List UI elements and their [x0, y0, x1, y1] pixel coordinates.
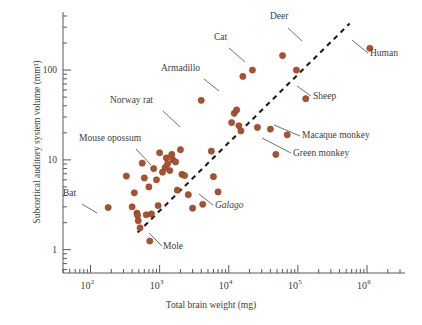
data-point[interactable]	[240, 73, 246, 79]
annotation-label: Deer	[270, 11, 289, 21]
data-point[interactable]	[208, 148, 214, 154]
x-axis-tick-exponent: 2	[91, 278, 95, 286]
x-axis-tick-label: 10	[288, 280, 298, 291]
annotation-leader-line	[163, 111, 180, 127]
annotation-leader-line	[288, 28, 302, 41]
data-point[interactable]	[254, 124, 260, 130]
annotation-label: Bat	[63, 188, 77, 198]
annotation-leader-line	[82, 204, 97, 213]
data-point[interactable]	[229, 120, 235, 126]
data-point[interactable]	[169, 151, 175, 157]
data-point[interactable]	[157, 150, 163, 156]
annotation-label: Sheep	[313, 91, 336, 101]
trend-line	[138, 24, 350, 233]
data-point[interactable]	[185, 192, 191, 198]
annotation-label: Armadillo	[161, 63, 200, 73]
data-point[interactable]	[200, 201, 206, 207]
annotation-leader-line	[262, 138, 291, 153]
data-point[interactable]	[146, 184, 152, 190]
annotation-label: Human	[370, 48, 398, 58]
data-point[interactable]	[267, 126, 273, 132]
data-point[interactable]	[284, 132, 290, 138]
annotation-label: Galago	[215, 200, 244, 210]
x-axis-tick-label: 10	[150, 280, 160, 291]
data-point[interactable]	[190, 205, 196, 211]
data-point[interactable]	[172, 159, 178, 165]
data-point[interactable]	[123, 173, 129, 179]
y-axis-tick-label: 1	[52, 245, 57, 255]
x-axis-tick-exponent: 5	[298, 278, 302, 286]
x-axis-tick-label: 10	[219, 280, 229, 291]
annotation-leader-line	[204, 79, 219, 91]
data-point[interactable]	[273, 151, 279, 157]
data-point[interactable]	[163, 155, 169, 161]
x-axis-tick-label: 10	[357, 280, 367, 291]
data-point[interactable]	[153, 177, 159, 183]
annotation-label: Mole	[163, 241, 183, 251]
x-axis-tick-exponent: 6	[367, 278, 371, 286]
annotation-label: Macaque monkey	[302, 130, 370, 140]
data-point[interactable]	[137, 225, 143, 231]
data-points-group	[105, 45, 373, 244]
data-point[interactable]	[151, 165, 157, 171]
y-axis-tick-label: 10	[48, 155, 58, 165]
data-point[interactable]	[135, 218, 141, 224]
data-point[interactable]	[215, 189, 221, 195]
data-point[interactable]	[129, 204, 135, 210]
annotation-label: Norway rat	[110, 95, 153, 105]
x-axis-tick-exponent: 3	[160, 278, 164, 286]
data-point[interactable]	[279, 52, 285, 58]
data-point[interactable]	[234, 107, 240, 113]
annotation-label: Green monkey	[293, 148, 349, 158]
data-point[interactable]	[293, 67, 299, 73]
data-point[interactable]	[155, 202, 161, 208]
data-point[interactable]	[198, 97, 204, 103]
annotation-label: Mouse opossum	[79, 133, 142, 143]
annotation-leader-line	[352, 40, 368, 53]
data-point[interactable]	[105, 204, 111, 210]
y-axis-title: Subcortical auditory system volume (mm³)	[32, 42, 42, 242]
data-point[interactable]	[164, 161, 170, 167]
annotation-labels-group: BatMouse opossumNorway ratArmadilloCatDe…	[63, 11, 398, 251]
data-point[interactable]	[177, 147, 183, 153]
y-axis-tick-label: 100	[43, 65, 58, 75]
annotation-label: Cat	[214, 32, 228, 42]
x-axis-tick-label: 10	[81, 280, 91, 291]
data-point[interactable]	[249, 67, 255, 73]
scatter-plot-figure: 110100102103104105106 BatMouse opossumNo…	[0, 0, 422, 325]
data-point[interactable]	[141, 175, 147, 181]
data-point[interactable]	[139, 160, 145, 166]
data-point[interactable]	[167, 167, 173, 173]
x-axis-title: Total brain weight (mg)	[0, 300, 422, 310]
data-point[interactable]	[148, 211, 154, 217]
x-axis-tick-exponent: 4	[229, 278, 233, 286]
plot-canvas: 110100102103104105106 BatMouse opossumNo…	[0, 0, 422, 325]
data-point[interactable]	[238, 128, 244, 134]
data-point[interactable]	[147, 238, 153, 244]
data-point[interactable]	[182, 172, 188, 178]
data-point[interactable]	[210, 174, 216, 180]
annotation-leader-line	[229, 48, 245, 62]
data-point[interactable]	[303, 96, 309, 102]
annotation-leader-line	[297, 86, 311, 96]
data-point[interactable]	[131, 190, 137, 196]
data-point[interactable]	[174, 187, 180, 193]
trendline-group	[138, 24, 350, 233]
